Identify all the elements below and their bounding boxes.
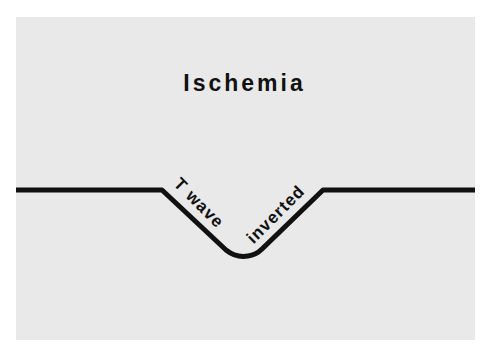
ecg-waveform: T wave inverted <box>0 0 489 355</box>
baseline-trace <box>16 190 475 256</box>
